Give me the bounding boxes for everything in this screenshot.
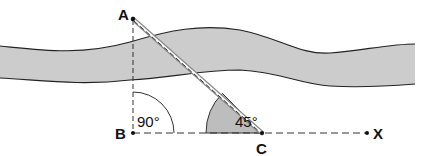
point-b (131, 131, 135, 135)
label-90-deg: 90° (137, 113, 160, 130)
river (0, 28, 415, 87)
label-45-deg: 45° (235, 113, 258, 130)
label-x: X (373, 125, 383, 142)
label-a: A (118, 6, 129, 23)
point-c (260, 131, 264, 135)
point-x (365, 131, 369, 135)
river-triangle-diagram: A B C X 90° 45° (0, 0, 421, 156)
label-c: C (256, 140, 267, 156)
label-b: B (115, 125, 126, 142)
point-a (131, 17, 135, 21)
